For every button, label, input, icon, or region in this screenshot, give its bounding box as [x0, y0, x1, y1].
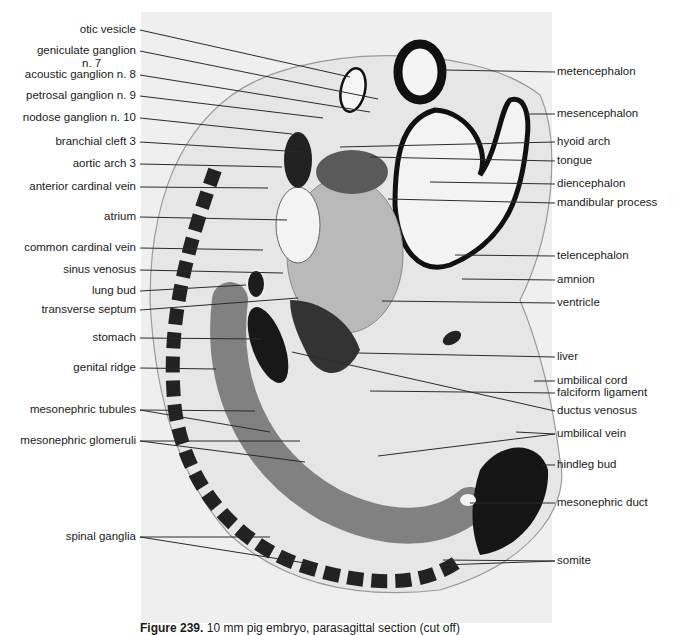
label-amnion: amnion [557, 273, 595, 286]
label-branchial-cleft-3: branchial cleft 3 [55, 135, 136, 148]
label-lung-bud: lung bud [92, 284, 136, 297]
label-acoustic-ganglion-n-8: acoustic ganglion n. 8 [25, 68, 136, 81]
caption-text: 10 mm pig embryo, parasagittal section (… [207, 621, 460, 635]
atrium-structure [276, 187, 320, 263]
label-aortic-arch-3: aortic arch 3 [73, 157, 136, 170]
label-transverse-septum: transverse septum [41, 303, 136, 316]
label-tongue: tongue [557, 154, 592, 167]
caption-label: Figure 239. [140, 621, 203, 635]
label-liver: liver [557, 350, 578, 363]
label-telencephalon: telencephalon [557, 249, 629, 262]
label-mandibular-process: mandibular process [557, 196, 657, 209]
label-sinus-venosus: sinus venosus [63, 263, 136, 276]
label-hyoid-arch: hyoid arch [557, 135, 610, 148]
label-mesonephric-glomeruli: mesonephric glomeruli [20, 434, 136, 447]
label-diencephalon: diencephalon [557, 177, 625, 190]
label-somite: somite [557, 554, 591, 567]
label-petrosal-ganglion-n-9: petrosal ganglion n. 9 [26, 89, 136, 102]
label-geniculate-ganglion: geniculate ganglion [37, 44, 136, 57]
label-atrium: atrium [104, 210, 136, 223]
figure-caption: Figure 239. 10 mm pig embryo, parasagitt… [140, 621, 460, 635]
label-anterior-cardinal-vein: anterior cardinal vein [29, 180, 136, 193]
label-spinal-ganglia: spinal ganglia [66, 530, 136, 543]
label-hindleg-bud: hindleg bud [557, 458, 616, 471]
label-mesencephalon: mesencephalon [557, 107, 638, 120]
label-metencephalon: metencephalon [557, 65, 636, 78]
label-common-cardinal-vein: common cardinal vein [24, 241, 136, 254]
label-falciform-ligament: falciform ligament [557, 386, 647, 399]
mesonephric-duct-structure [460, 494, 476, 506]
label-ventricle: ventricle [557, 296, 600, 309]
lung-bud-structure [247, 270, 265, 298]
label-stomach: stomach [93, 331, 136, 344]
leader-line-otic-vesicle [140, 30, 350, 77]
label-genital-ridge: genital ridge [73, 361, 136, 374]
tongue-structure [316, 150, 388, 194]
label-otic-vesicle: otic vesicle [80, 23, 136, 36]
label-nodose-ganglion-n-10: nodose ganglion n. 10 [23, 111, 136, 124]
label-umbilical-vein: umbilical vein [557, 427, 626, 440]
label-ductus-venosus: ductus venosus [557, 404, 637, 417]
label-mesonephric-duct: mesonephric duct [557, 496, 648, 509]
label-mesonephric-tubules: mesonephric tubules [30, 403, 136, 416]
branchial-region [284, 132, 312, 188]
metencephalon-structure [398, 44, 442, 100]
